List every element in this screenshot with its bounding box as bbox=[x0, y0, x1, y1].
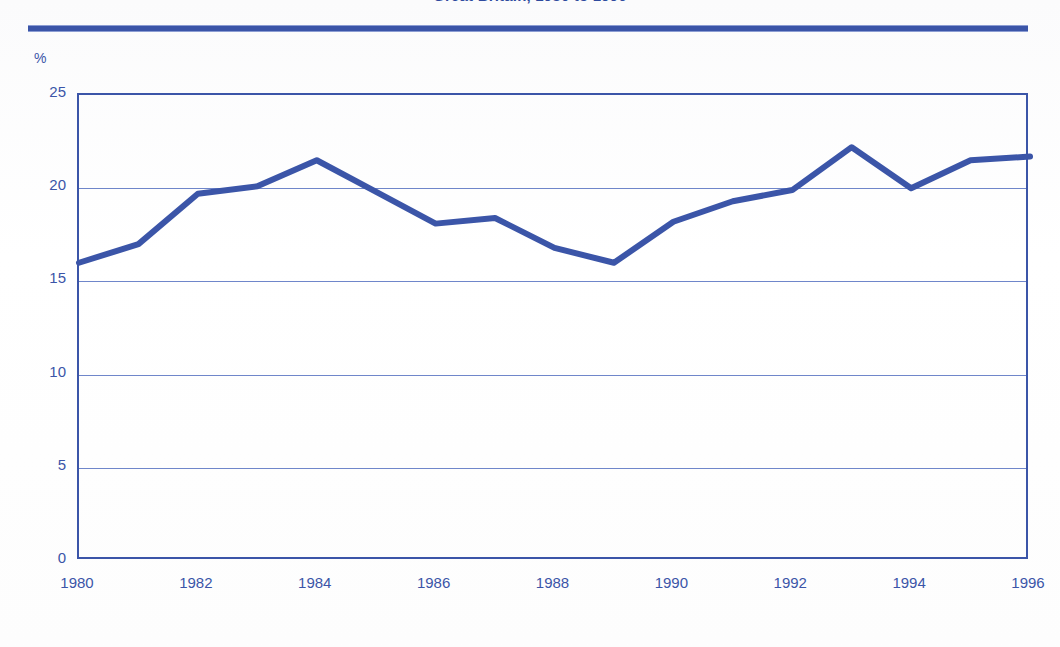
y-tick-label-25: 25 bbox=[8, 83, 66, 100]
title-rule bbox=[28, 25, 1028, 32]
x-tick-label-1982: 1982 bbox=[166, 574, 226, 591]
plot-area bbox=[77, 93, 1028, 559]
x-tick-label-1994: 1994 bbox=[879, 574, 939, 591]
x-tick-label-1980: 1980 bbox=[47, 574, 107, 591]
series-line bbox=[79, 95, 1030, 561]
y-tick-label-10: 10 bbox=[8, 363, 66, 380]
y-tick-label-15: 15 bbox=[8, 269, 66, 286]
y-tick-label-0: 0 bbox=[8, 549, 66, 566]
x-tick-label-1986: 1986 bbox=[404, 574, 464, 591]
chart-title: Great Britain, 1980 to 1996 bbox=[0, 0, 1060, 4]
chart-page: Great Britain, 1980 to 1996 % 0510152025… bbox=[0, 0, 1060, 647]
data-series-polyline bbox=[79, 147, 1030, 263]
x-tick-label-1988: 1988 bbox=[523, 574, 583, 591]
x-tick-label-1990: 1990 bbox=[641, 574, 701, 591]
y-axis-unit-label: % bbox=[34, 50, 46, 66]
x-tick-label-1996: 1996 bbox=[998, 574, 1058, 591]
x-tick-label-1984: 1984 bbox=[285, 574, 345, 591]
y-tick-label-5: 5 bbox=[8, 456, 66, 473]
x-tick-label-1992: 1992 bbox=[760, 574, 820, 591]
y-tick-label-20: 20 bbox=[8, 176, 66, 193]
